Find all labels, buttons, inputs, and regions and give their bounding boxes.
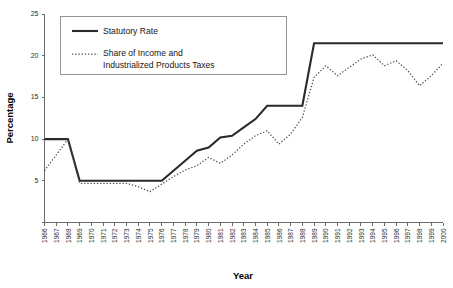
chart-legend: Statutory Rate Share of Income and Indus…: [61, 17, 287, 75]
y-tick-label: 25: [31, 10, 39, 17]
x-tick-label: 1987: [287, 228, 294, 243]
x-tick-label: 1967: [53, 228, 60, 243]
legend-label-share-of-income-taxes-line2: Industrialized Products Taxes: [103, 60, 215, 70]
x-tick-label: 1979: [193, 228, 200, 243]
chart-figure: 510152025 196619671968196919701971197219…: [0, 0, 453, 288]
y-tick-label: 15: [31, 93, 39, 100]
x-tick-label: 1991: [334, 228, 341, 243]
x-tick-label: 1984: [252, 228, 259, 243]
x-tick-label: 1999: [428, 228, 435, 243]
x-tick-label: 1982: [229, 228, 236, 243]
series-share-of-income-taxes: [45, 55, 444, 192]
x-tick-label: 1972: [111, 228, 118, 243]
x-tick-label: 1974: [135, 228, 142, 243]
x-tick-label: 1989: [311, 228, 318, 243]
x-tick-label: 1983: [240, 228, 247, 243]
x-tick-label: 1992: [346, 228, 353, 243]
x-tick-label: 1994: [369, 228, 376, 243]
x-tick-label: 1997: [404, 228, 411, 243]
x-tick-label: 1981: [217, 228, 224, 243]
y-axis-title: Percentage: [4, 92, 15, 143]
x-tick-label: 1966: [41, 228, 48, 243]
legend-label-statutory-rate: Statutory Rate: [103, 26, 158, 36]
line-chart: 510152025 196619671968196919701971197219…: [0, 0, 453, 288]
x-tick-label: 2000: [440, 228, 447, 243]
x-tick-label: 1977: [170, 228, 177, 243]
x-tick-label: 1995: [381, 228, 388, 243]
x-tick-label: 1988: [299, 228, 306, 243]
x-axis-title: Year: [233, 270, 253, 281]
x-tick-label: 1996: [393, 228, 400, 243]
x-tick-label: 1969: [76, 228, 83, 243]
x-tick-label: 1971: [100, 228, 107, 243]
x-tick-label: 1990: [322, 228, 329, 243]
x-tick-label: 1993: [358, 228, 365, 243]
y-tick-label: 10: [31, 135, 39, 142]
x-tick-label: 1976: [158, 228, 165, 243]
x-tick-label: 1985: [264, 228, 271, 243]
x-tick-label: 1975: [147, 228, 154, 243]
x-axis-ticks: 1966196719681969197019711972197319741975…: [41, 223, 447, 243]
y-axis-ticks: 510152025: [31, 10, 45, 223]
x-tick-label: 1970: [88, 228, 95, 243]
x-tick-label: 1973: [123, 228, 130, 243]
x-tick-label: 1968: [65, 228, 72, 243]
x-tick-label: 1986: [276, 228, 283, 243]
legend-label-share-of-income-taxes-line1: Share of Income and: [103, 48, 183, 58]
y-tick-label: 5: [35, 177, 39, 184]
y-tick-label: 20: [31, 52, 39, 59]
x-tick-label: 1980: [205, 228, 212, 243]
x-tick-label: 1998: [416, 228, 423, 243]
x-tick-label: 1978: [182, 228, 189, 243]
